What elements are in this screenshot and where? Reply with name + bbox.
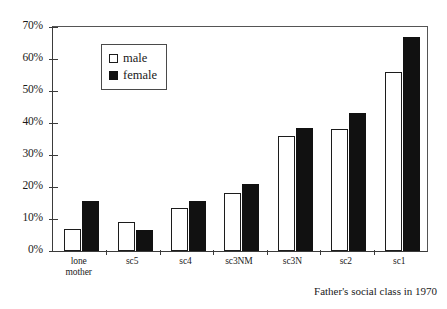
- bar-male-sc2: [331, 129, 348, 251]
- bar-female-sc4: [189, 201, 206, 251]
- bar-group: [53, 27, 106, 251]
- legend-item-female: female: [109, 67, 157, 84]
- filled-square-icon: [109, 71, 118, 80]
- bar-male-sc3nm: [224, 193, 241, 251]
- bar-male-sc3n: [278, 136, 295, 251]
- hollow-square-icon: [109, 54, 118, 63]
- y-axis-tick-label: 60%: [23, 52, 43, 64]
- bar-female-sc1: [403, 37, 420, 251]
- bar-female-lone-mother: [82, 201, 99, 251]
- bar-chart-figure: 0%10%20%30%40%50%60%70% male female lone…: [0, 0, 447, 309]
- y-axis-tick-label: 40%: [23, 116, 43, 128]
- bar-male-sc1: [385, 72, 402, 251]
- bar-female-sc5: [136, 230, 153, 251]
- x-axis-category-label: sc4: [159, 256, 212, 267]
- x-axis-category-label: sc3N: [266, 256, 319, 267]
- bar-female-sc3nm: [242, 184, 259, 251]
- y-axis-tick: [53, 251, 58, 252]
- chart-legend: male female: [101, 44, 167, 90]
- legend-label-male: male: [123, 52, 147, 65]
- x-axis-category-label: sc5: [105, 256, 158, 267]
- legend-item-male: male: [109, 50, 157, 67]
- bar-group: [160, 27, 213, 251]
- y-axis-tick-label: 50%: [23, 84, 43, 96]
- x-axis-category-label: sc2: [319, 256, 372, 267]
- legend-label-female: female: [123, 69, 157, 82]
- bar-group: [213, 27, 266, 251]
- y-axis-tick-label: 10%: [23, 212, 43, 224]
- y-axis-labels: 0%10%20%30%40%50%60%70%: [0, 0, 48, 309]
- bar-female-sc2: [349, 113, 366, 251]
- bar-group: [267, 27, 320, 251]
- bar-male-sc4: [171, 208, 188, 251]
- x-axis-category-label: sc3NM: [212, 256, 265, 267]
- y-axis-tick-stub: [49, 251, 53, 252]
- bar-group: [320, 27, 373, 251]
- bar-male-sc5: [118, 222, 135, 251]
- x-axis-category-label: lone mother: [52, 256, 105, 278]
- x-axis-title: Father's social class in 1970: [0, 285, 437, 297]
- y-axis-tick-label: 70%: [23, 20, 43, 32]
- bar-male-lone-mother: [64, 229, 81, 251]
- bar-group: [374, 27, 427, 251]
- y-axis-tick-label: 30%: [23, 148, 43, 160]
- y-axis-tick-label: 0%: [28, 244, 43, 256]
- bar-female-sc3n: [296, 128, 313, 251]
- x-axis-category-label: sc1: [373, 256, 426, 267]
- y-axis-tick-label: 20%: [23, 180, 43, 192]
